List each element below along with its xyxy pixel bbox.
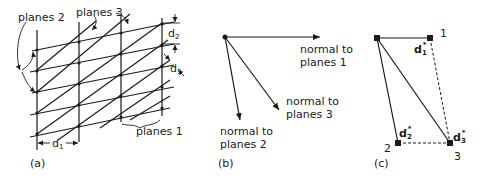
normal2-label-line2: planes 2 [220, 138, 267, 151]
normal-planes3-arrow [225, 37, 279, 110]
panel-a-annotations [18, 13, 184, 143]
planes1-label: planes 1 [136, 125, 183, 138]
normal-planes2-arrow [225, 37, 240, 120]
plane3-line [130, 96, 170, 120]
point-1 [427, 35, 433, 41]
planes3-label: planes 3 [76, 6, 123, 19]
plane3-line [37, 21, 96, 70]
planes2-pointer [22, 72, 35, 92]
origin-point [374, 35, 380, 41]
plane3-line [37, 23, 162, 113]
panel-c-caption: (c) [374, 157, 389, 170]
normal1-label-line2: planes 1 [300, 56, 347, 69]
point1-label: 1 [440, 27, 447, 40]
d2-label: d2 [168, 27, 179, 41]
d3-label: d3 [170, 62, 181, 76]
point2-label: 2 [384, 142, 391, 155]
point-2 [395, 140, 401, 146]
planes2-pointer [22, 52, 33, 70]
d3-star-label: d3* [453, 129, 466, 145]
point3-label: 3 [454, 150, 461, 163]
origin-point [223, 35, 228, 40]
normal1-label-line1: normal to [300, 43, 353, 56]
planes2-pointer [18, 22, 26, 70]
panel-a-caption: (a) [30, 157, 45, 170]
dashed-edge-1-3 [430, 38, 450, 143]
panel-b-caption: (b) [218, 157, 234, 170]
normal3-label-line1: normal to [286, 95, 339, 108]
d1-label: d1 [52, 137, 63, 151]
plane3-line [37, 14, 130, 92]
normal3-label-line2: planes 3 [286, 108, 333, 121]
planes2-label: planes 2 [18, 11, 65, 24]
d2-star-label: d2* [399, 125, 412, 141]
normal2-label-line1: normal to [220, 125, 273, 138]
plane2-line [30, 87, 174, 115]
d1-star-label: d1* [414, 41, 427, 57]
crystal-planes-diagram: planes 2 planes 3 planes 1 d1 d2 d3 (a) … [0, 0, 480, 179]
